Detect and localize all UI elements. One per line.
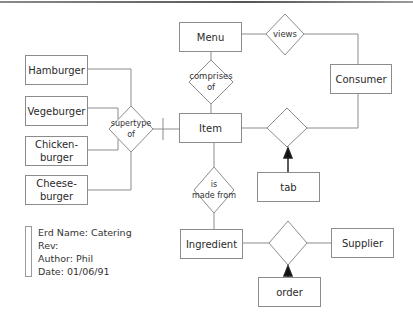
entity-hamburger: Hamburger: [25, 55, 88, 85]
relationship-label-views: views: [266, 28, 304, 40]
item-consumer-diamond: [267, 108, 307, 147]
entity-ingredient: Ingredient: [180, 229, 243, 259]
entity-item: Item: [179, 113, 242, 143]
entity-cheeseburger: Cheese- burger: [25, 175, 88, 205]
legend-name: Erd Name: Catering: [38, 226, 132, 239]
entity-vegeburger: Vegeburger: [25, 96, 88, 126]
entity-supplier: Supplier: [331, 228, 394, 258]
relationship-label-supertype: supertype of: [109, 117, 153, 141]
legend-bar: [25, 226, 32, 277]
entity-consumer: Consumer: [330, 64, 392, 94]
entity-menu: Menu: [179, 22, 242, 52]
ingredient-supplier-diamond: [269, 221, 307, 265]
entity-tab: tab: [257, 172, 320, 202]
legend-date: Date: 01/06/91: [38, 265, 132, 278]
legend-author: Author: Phil: [38, 252, 132, 265]
legend-block: Erd Name: Catering Rev: Author: Phil Dat…: [38, 226, 132, 278]
entity-chickenburger: Chicken- burger: [25, 136, 88, 166]
legend-rev: Rev:: [38, 239, 132, 252]
relationship-label-made-from: is made from: [192, 178, 236, 202]
entity-order: order: [258, 277, 321, 307]
relationship-label-comprises: comprises of: [189, 70, 233, 94]
